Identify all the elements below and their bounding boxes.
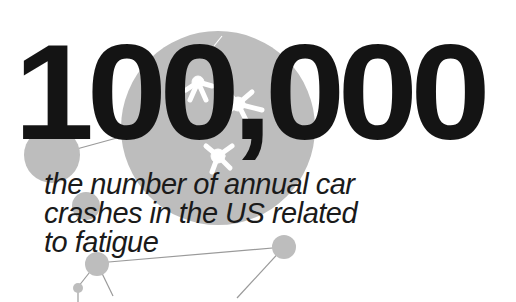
infographic: 100,000 the number of annual car crashes… xyxy=(0,0,516,302)
headline-number: 100,000 xyxy=(14,24,483,160)
caption-line: crashes in the US related xyxy=(44,199,357,228)
node-circle xyxy=(73,283,83,293)
caption-line: to fatigue xyxy=(44,228,357,257)
caption: the number of annual car crashes in the … xyxy=(44,170,357,257)
caption-line: the number of annual car xyxy=(44,170,357,199)
